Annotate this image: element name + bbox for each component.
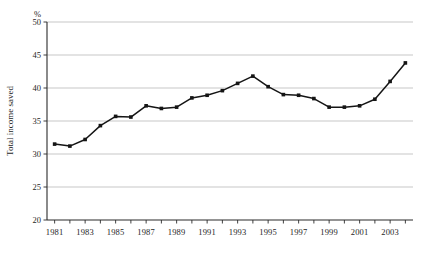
data-point-marker [312, 97, 316, 101]
data-point-marker [282, 93, 286, 97]
x-axis-tick-label: 1981 [46, 227, 64, 237]
y-axis-unit-label: % [34, 9, 41, 19]
data-point-marker [404, 61, 408, 65]
line-chart: 20253035404550%1981198319851987198919911… [0, 0, 425, 254]
x-axis-tick-label: 1989 [168, 227, 186, 237]
y-axis-tick-label: 25 [33, 182, 42, 192]
series-line [55, 63, 406, 146]
data-point-marker [266, 85, 270, 89]
x-axis-tick-label: 1985 [107, 227, 125, 237]
y-axis-tick-label: 45 [33, 50, 42, 60]
y-axis-tick-label: 20 [33, 215, 42, 225]
data-point-marker [99, 124, 103, 128]
y-axis-title: Total income saved [5, 86, 15, 156]
data-point-marker [327, 105, 331, 109]
data-point-marker [297, 93, 301, 97]
data-point-marker [373, 97, 377, 101]
data-point-marker [221, 89, 225, 93]
data-point-marker [53, 142, 57, 146]
data-point-marker [251, 74, 255, 78]
x-axis-tick-label: 1999 [320, 227, 338, 237]
x-axis-tick-label: 1991 [198, 227, 216, 237]
data-point-marker [236, 82, 240, 86]
data-point-marker [129, 115, 133, 119]
y-axis-tick-label: 40 [33, 83, 42, 93]
x-axis-tick-label: 1997 [290, 227, 308, 237]
data-point-marker [343, 105, 347, 109]
x-axis-tick-label: 1993 [229, 227, 247, 237]
data-point-marker [205, 93, 209, 97]
data-point-marker [144, 104, 148, 108]
data-point-marker [175, 105, 179, 109]
x-axis-tick-label: 1987 [137, 227, 155, 237]
chart-container: 20253035404550%1981198319851987198919911… [0, 0, 425, 254]
data-point-marker [83, 138, 87, 142]
data-point-marker [190, 96, 194, 100]
data-point-marker [68, 144, 72, 148]
data-point-marker [388, 80, 392, 84]
x-axis-tick-label: 1995 [259, 227, 277, 237]
x-axis-tick-label: 2003 [381, 227, 399, 237]
series-group [53, 61, 407, 148]
data-point-marker [358, 104, 362, 108]
y-axis-tick-label: 30 [33, 149, 42, 159]
ticks-group [44, 22, 406, 224]
labels-group: 20253035404550%1981198319851987198919911… [5, 9, 399, 237]
x-axis-tick-label: 1983 [76, 227, 94, 237]
x-axis-tick-label: 2001 [351, 227, 369, 237]
y-axis-tick-label: 35 [33, 116, 42, 126]
data-point-marker [114, 115, 118, 119]
data-point-marker [160, 107, 164, 111]
